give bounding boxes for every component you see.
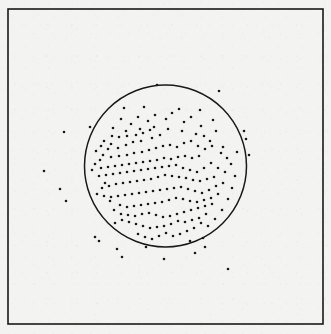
scatter-point (194, 190, 197, 193)
scatter-point (213, 176, 216, 179)
scatter-point (170, 158, 173, 161)
scatter-point (159, 189, 162, 192)
scatter-point (126, 154, 129, 157)
scatter-point (134, 215, 137, 218)
scatter-point (230, 163, 233, 166)
plot-canvas (0, 0, 331, 334)
scatter-point (175, 164, 178, 167)
scatter-point (170, 223, 173, 226)
scatter-point (168, 165, 171, 168)
scatter-point (192, 179, 195, 182)
scatter-point (133, 152, 136, 155)
scatter-point (212, 119, 215, 122)
scatter-point (183, 121, 186, 124)
scatter-point (190, 116, 193, 119)
scatter-point (210, 197, 213, 200)
scatter-point (149, 129, 152, 132)
scatter-point (135, 134, 138, 137)
scatter-point (137, 233, 140, 236)
scatter-point (130, 123, 133, 126)
scatter-point (205, 213, 208, 216)
scatter-point (117, 195, 120, 198)
scatter-point (155, 214, 158, 217)
scatter-point (243, 130, 246, 133)
scatter-point (59, 188, 62, 191)
scatter-point (215, 130, 218, 133)
scatter-point (103, 140, 106, 143)
scatter-point (104, 182, 107, 185)
scatter-point (147, 203, 150, 206)
scatter-point (107, 148, 110, 151)
scatter-point (190, 140, 193, 143)
scatter-point (154, 114, 157, 117)
scatter-point (179, 233, 182, 236)
scatter-point (194, 252, 197, 255)
scatter-point (100, 145, 103, 148)
scatter-point (209, 140, 212, 143)
scatter-point (203, 167, 206, 170)
scatter-point (227, 268, 230, 271)
scatter-point (169, 144, 172, 147)
scatter-point (121, 219, 124, 222)
scatter-point (217, 167, 220, 170)
scatter-point (224, 171, 227, 174)
scatter-point (175, 197, 178, 200)
scatter-point (215, 185, 218, 188)
scatter-point (133, 170, 136, 173)
scatter-point (154, 167, 157, 170)
scatter-point (128, 163, 131, 166)
scatter-point (145, 246, 148, 249)
scatter-point (189, 169, 192, 172)
scatter-point (142, 132, 145, 135)
scatter-point (126, 135, 129, 138)
scatter-point (203, 199, 206, 202)
scatter-point (149, 160, 152, 163)
scatter-point (136, 180, 139, 183)
scatter-point (206, 178, 209, 181)
scatter-point (116, 248, 119, 251)
scatter-point (191, 157, 194, 160)
scatter-point (118, 155, 121, 158)
scatter-point (117, 147, 120, 150)
scatter-point (161, 166, 164, 169)
scatter-point (150, 178, 153, 181)
scatter-point (197, 207, 200, 210)
scatter-point (200, 125, 203, 128)
scatter-point (137, 116, 140, 119)
scatter-point (131, 193, 134, 196)
scatter-point (43, 170, 46, 173)
scatter-point (218, 90, 221, 93)
scatter-point (112, 173, 115, 176)
scatter-point (152, 190, 155, 193)
scatter-point (211, 203, 214, 206)
scatter-point (204, 148, 207, 151)
scatter-point (121, 164, 124, 167)
scatter-point (101, 187, 104, 190)
scatter-point (204, 205, 207, 208)
scatter-point (181, 130, 184, 133)
scatter-point (65, 200, 68, 203)
scatter-point (222, 146, 225, 149)
scatter-point (105, 174, 108, 177)
scatter-point (94, 163, 97, 166)
scatter-point (100, 167, 103, 170)
scatter-point (187, 188, 190, 191)
scatter-point (126, 206, 129, 209)
scatter-point (141, 213, 144, 216)
scatter-point (96, 193, 99, 196)
scatter-point (115, 183, 118, 186)
scatter-point (171, 175, 174, 178)
scatter-point (98, 240, 101, 243)
scatter-point (199, 109, 202, 112)
scatter-point (164, 174, 167, 177)
scatter-point (227, 198, 230, 201)
scatter-point (110, 143, 113, 146)
scatter-point (147, 120, 150, 123)
scatter-point (214, 218, 217, 221)
scatter-point (189, 240, 192, 243)
scatter-point (184, 221, 187, 224)
scatter-point (114, 165, 117, 168)
scatter-point (142, 161, 145, 164)
scatter-point (196, 171, 199, 174)
scatter-point (177, 156, 180, 159)
